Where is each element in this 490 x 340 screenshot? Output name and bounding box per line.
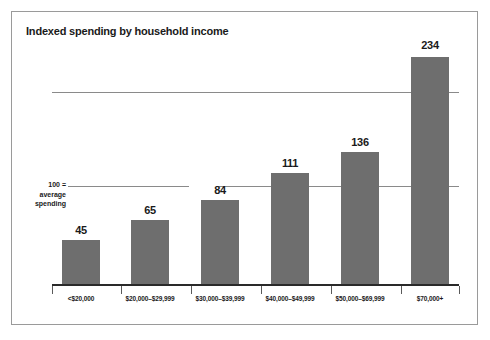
gridline-100-segment-c [309, 186, 341, 187]
x-axis-tick [401, 286, 402, 294]
plot-area: 45<$20,00065$20,000–$29,99984$30,000–$39… [0, 0, 490, 340]
x-axis-tick [121, 286, 122, 294]
bar[interactable] [341, 152, 379, 284]
x-axis-tick [331, 286, 332, 294]
bar-value-label: 136 [331, 136, 389, 148]
gridline-100 [68, 186, 189, 187]
chart-figure: Indexed spending by household income 45<… [0, 0, 490, 340]
bar[interactable] [411, 57, 449, 284]
gridline-100-segment-d [379, 186, 411, 187]
bar-value-label: 111 [261, 157, 319, 169]
x-axis-baseline [52, 284, 459, 286]
bar[interactable] [201, 200, 239, 284]
annotation-line-2: average [14, 190, 66, 200]
average-spending-annotation: 100 = average spending [14, 180, 66, 209]
gridline-200-stub-right [449, 92, 459, 93]
bar-value-label: 234 [401, 39, 459, 51]
bar[interactable] [271, 173, 309, 284]
bar-value-label: 84 [191, 184, 249, 196]
annotation-line-1: 100 = [14, 180, 66, 190]
x-axis-tick [261, 286, 262, 294]
x-axis-category-label: $70,000+ [385, 295, 475, 302]
bar-value-label: 45 [52, 224, 110, 236]
x-axis-tick [459, 286, 460, 294]
gridline-100-stub-right [449, 186, 459, 187]
annotation-line-3: spending [14, 199, 66, 209]
bar-value-label: 65 [121, 204, 179, 216]
bar[interactable] [131, 220, 169, 284]
gridline-200 [52, 92, 411, 93]
x-axis-tick [52, 286, 53, 294]
bar[interactable] [62, 240, 100, 284]
x-axis-tick [191, 286, 192, 294]
